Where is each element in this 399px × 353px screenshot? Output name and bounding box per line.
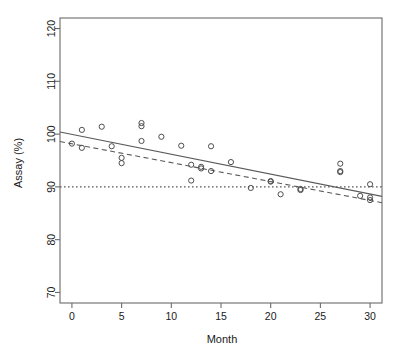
- y-tick-label: 90: [45, 181, 57, 193]
- y-axis-label: Assay (%): [12, 138, 24, 188]
- y-tick-label: 110: [45, 73, 57, 90]
- x-tick-label: 15: [215, 310, 227, 322]
- x-tick-label: 5: [119, 310, 125, 322]
- chart-canvas: 708090100110120 051015202530 Month Assay…: [0, 0, 399, 353]
- y-tick-label: 120: [45, 20, 57, 38]
- x-tick-label: 20: [265, 310, 277, 322]
- assay-stability-chart: 708090100110120 051015202530 Month Assay…: [0, 0, 399, 353]
- x-tick-label: 0: [69, 310, 75, 322]
- y-tick-label: 70: [45, 286, 57, 298]
- x-tick-label: 10: [165, 310, 177, 322]
- y-tick-label: 80: [45, 234, 57, 246]
- x-axis-label: Month: [207, 333, 238, 345]
- y-tick-label: 100: [45, 125, 57, 143]
- x-tick-label: 30: [364, 310, 376, 322]
- x-tick-label: 25: [315, 310, 327, 322]
